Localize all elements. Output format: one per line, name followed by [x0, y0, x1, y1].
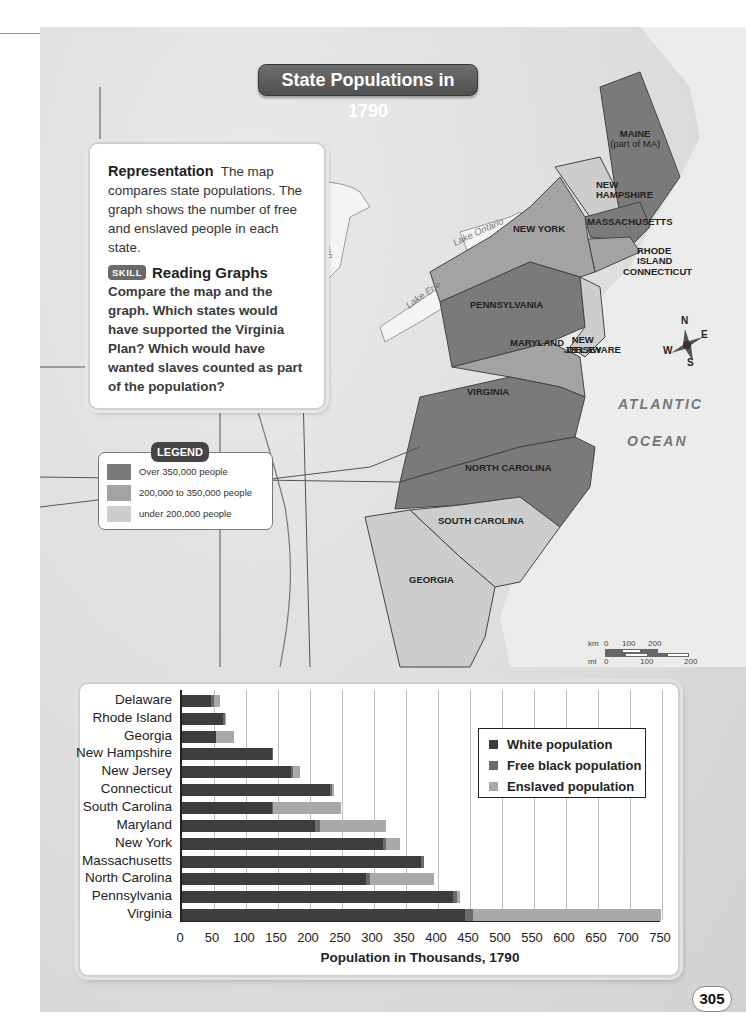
bar-segment: [182, 802, 272, 814]
legend-swatch-medium: [107, 485, 131, 501]
info-box: Representation The map compares state po…: [88, 142, 326, 410]
label-delaware: DELAWARE: [567, 345, 621, 355]
representation-lead: Representation: [108, 163, 214, 179]
compass-w: W: [663, 345, 672, 356]
tick-label: 150: [265, 930, 287, 945]
tick-label: 550: [521, 930, 543, 945]
gridline: [662, 690, 663, 920]
bar-segment: [216, 731, 235, 743]
category-label: Rhode Island: [92, 710, 172, 725]
legend-swatch-light: [107, 506, 131, 522]
bar-north-carolina: [182, 873, 434, 885]
tick-label: 500: [489, 930, 511, 945]
gridline: [534, 690, 535, 920]
category-label: North Carolina: [85, 870, 172, 885]
plot-area: [180, 690, 660, 922]
label-maryland: MARYLAND: [510, 338, 564, 348]
tick-label: 450: [457, 930, 479, 945]
bar-segment: [182, 891, 453, 903]
legend-title: LEGEND: [151, 442, 209, 462]
bar-segment: [370, 873, 435, 885]
bar-maryland: [182, 820, 386, 832]
tick-label: 200: [297, 930, 319, 945]
tick-label: 300: [361, 930, 383, 945]
tick-label: 600: [553, 930, 575, 945]
bar-new-jersey: [182, 766, 300, 778]
gridline: [342, 690, 343, 920]
bar-new-hampshire: [182, 748, 273, 760]
legend-free-black: Free black population: [489, 755, 645, 776]
category-label: Massachusetts: [82, 853, 172, 868]
category-label: New Hampshire: [76, 745, 172, 760]
skill-heading: SKILL Reading Graphs: [108, 263, 308, 282]
bar-segment: [182, 784, 330, 796]
gridline: [438, 690, 439, 920]
legend-white: White population: [489, 734, 645, 755]
compass-s: S: [687, 357, 694, 368]
map-legend: LEGEND Over 350,000 people 200,000 to 35…: [98, 452, 273, 530]
map-title: State Populations in 1790: [258, 64, 478, 96]
gridline: [374, 690, 375, 920]
bar-segment: [320, 820, 386, 832]
x-axis-title: Population in Thousands, 1790: [180, 950, 660, 965]
bar-segment: [182, 713, 223, 725]
category-label: South Carolina: [83, 799, 172, 814]
legend-item-under-200k: under 200,000 people: [107, 503, 272, 524]
legend-item-over-350k: Over 350,000 people: [107, 461, 272, 482]
label-new-york: NEW YORK: [513, 224, 565, 234]
label-south-carolina: SOUTH CAROLINA: [438, 516, 524, 526]
tick-label: 250: [329, 930, 351, 945]
tick-label: 750: [649, 930, 671, 945]
gridline: [566, 690, 567, 920]
compass-e: E: [701, 329, 708, 340]
category-label: New York: [115, 835, 172, 850]
bar-segment: [182, 748, 272, 760]
bar-segment: [293, 766, 300, 778]
bar-new-york: [182, 838, 400, 850]
category-label: Georgia: [124, 728, 172, 743]
category-label: Virginia: [127, 906, 172, 921]
skill-question: Compare the map and the graph. Which sta…: [108, 282, 308, 396]
bar-massachusetts: [182, 856, 424, 868]
compass-rose: N E S W: [667, 317, 707, 377]
label-maine: MAINE(part of MA): [610, 129, 660, 149]
scale-bar: km 0 100 200 mi 0 100 200: [600, 639, 710, 667]
label-new-hampshire: NEWHAMPSHIRE: [596, 180, 653, 200]
label-atlantic: ATLANTIC: [618, 396, 703, 412]
bar-segment: [465, 909, 473, 921]
compass-icon: [667, 317, 707, 377]
bar-segment: [473, 909, 661, 921]
label-virginia: VIRGINIA: [467, 387, 509, 397]
bar-segment: [182, 838, 383, 850]
bar-connecticut: [182, 784, 334, 796]
bar-segment: [182, 856, 421, 868]
tick-label: 100: [233, 930, 255, 945]
category-label: Maryland: [116, 817, 172, 832]
bar-georgia: [182, 731, 234, 743]
tick-label: 350: [393, 930, 415, 945]
page-number: 305: [692, 986, 732, 1012]
gridline: [630, 690, 631, 920]
tick-label: 400: [425, 930, 447, 945]
bar-segment: [457, 891, 460, 903]
label-north-carolina: NORTH CAROLINA: [465, 463, 552, 473]
page-rule: [0, 33, 40, 34]
gridline: [470, 690, 471, 920]
tick-label: 650: [585, 930, 607, 945]
bar-segment: [225, 713, 226, 725]
label-ocean: OCEAN: [627, 433, 688, 449]
bar-rhode-island: [182, 713, 225, 725]
label-pennsylvania: PENNSYLVANIA: [470, 300, 543, 310]
population-graph: DelawareRhode IslandGeorgiaNew Hampshire…: [78, 682, 680, 977]
bar-segment: [182, 731, 216, 743]
bar-segment: [421, 856, 424, 868]
tick-label: 700: [617, 930, 639, 945]
gridline: [598, 690, 599, 920]
legend-swatch-dark: [107, 464, 131, 480]
tick-label: 0: [176, 930, 183, 945]
bar-virginia: [182, 909, 661, 921]
bar-segment: [182, 909, 465, 921]
bar-segment: [332, 784, 334, 796]
category-label: New Jersey: [101, 763, 172, 778]
tick-label: 50: [205, 930, 219, 945]
